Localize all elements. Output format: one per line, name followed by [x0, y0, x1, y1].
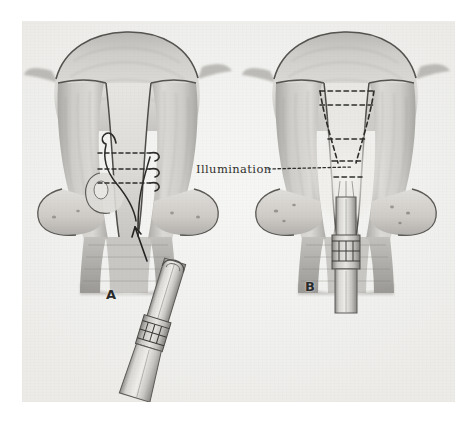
illumination-annotation-label: Illumination: [196, 162, 272, 176]
panel-label-a: A: [106, 287, 117, 302]
panel-b-figure: [242, 32, 450, 313]
illustration-plate: A B Illumination: [22, 21, 455, 402]
panel-label-b: B: [305, 279, 315, 294]
panel-b-instrument: [332, 197, 360, 313]
anatomical-drawing: [22, 21, 455, 402]
panel-a-figure: [24, 32, 232, 402]
illustration-plate-wrapper: A B Illumination: [0, 0, 471, 423]
